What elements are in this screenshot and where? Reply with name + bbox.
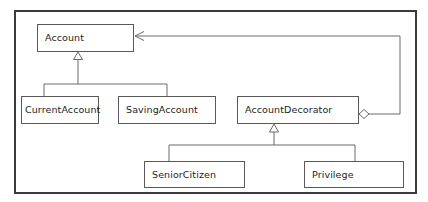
diagram-canvas xyxy=(0,0,428,202)
class-box-current-account[interactable] xyxy=(22,97,99,124)
aggregation-diamond-account-decorator xyxy=(359,110,369,119)
generalization-triangle-account-decorator xyxy=(270,124,279,132)
class-box-senior-citizen[interactable] xyxy=(145,162,245,188)
class-box-account-decorator[interactable] xyxy=(238,97,359,124)
generalization-edge-current-account-to-account xyxy=(44,58,167,96)
class-box-account[interactable] xyxy=(38,25,134,52)
generalization-triangle-account xyxy=(74,52,83,60)
class-box-saving-account[interactable] xyxy=(119,97,216,124)
generalization-edge-senior-citizen-to-account-decorator xyxy=(169,131,355,161)
uml-class-diagram: Account CurrentAccount SavingAccount Acc… xyxy=(0,0,428,202)
class-box-privilege[interactable] xyxy=(305,162,404,188)
